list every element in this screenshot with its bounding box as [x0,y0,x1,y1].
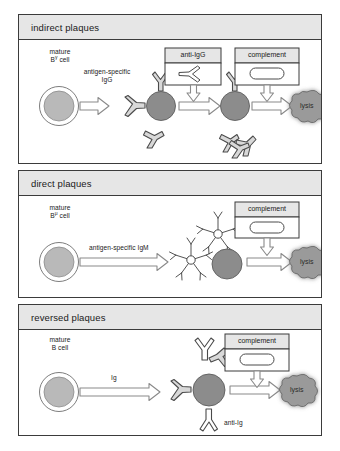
lysis-label-direct: lysis [300,258,314,265]
complement-box-title-direct: complement [235,205,299,212]
arrow-secretion-indirect [80,98,109,115]
igg-antibody-free [125,96,145,117]
igg-label-line1: antigen-specific [84,68,131,75]
panel-title-reversed: reversed plaques [31,312,105,323]
mature-b-cell-direct [40,243,79,282]
panel-body-direct: mature Bμ cell antigen-specific IgM comp… [19,196,321,297]
mature-label-line1-direct: mature [50,204,71,211]
igm-pentamer-lower [170,238,213,280]
mature-label-line2-post-reversed: cell [56,344,68,351]
arrow-ig-secretion [80,384,160,401]
complement-box-title-reversed: complement [225,337,289,344]
complement-box-title-indirect: complement [235,51,299,58]
panel-direct-plaques: direct plaques [18,170,322,298]
panel-title-indirect: indirect plaques [31,22,99,33]
arrow-anti-igg-step [179,98,220,115]
mature-label-line1-reversed: mature [50,336,71,343]
arrow-complement-step [252,98,292,115]
panel-indirect-plaques: indirect plaques [18,14,322,164]
antigen-specific-igg-label: antigen-specific IgG [79,68,135,84]
mature-b-cell-reversed [40,373,79,412]
panel-reversed-plaques: reversed plaques [18,304,322,436]
igm-pentamer-upper [197,212,240,254]
plaque-assay-figure: indirect plaques [0,0,340,451]
mature-cell-label-direct: mature Bμ cell [37,204,83,220]
panel-body-indirect: mature Bγ cell antigen-specific IgG anti… [19,40,321,163]
mature-cell-label-reversed: mature B cell [37,336,83,352]
anti-igg-box-title: anti-IgG [165,51,221,58]
mature-label-line1: mature [50,48,71,55]
ig-arrow-label: Ig [111,374,117,382]
panel-header-direct: direct plaques [19,171,321,196]
ig-antibody-free-reversed [171,380,191,401]
panel-body-reversed: mature B cell Ig anti-Ig complement lysi… [19,330,321,435]
panel-title-direct: direct plaques [31,178,92,189]
anti-ig-label: anti-Ig [224,419,243,427]
arrow-complement-step-direct [247,254,292,271]
panel-header-reversed: reversed plaques [19,305,321,330]
arrow-igm-secretion [80,254,168,271]
mature-cell-label-indirect: mature Bγ cell [37,48,83,64]
panel-header-indirect: indirect plaques [19,15,321,40]
lysis-label-indirect: lysis [300,102,314,109]
igg-label-line2: IgG [102,76,113,83]
antigen-specific-igm-label: antigen-specific IgM [89,244,149,252]
lysis-label-reversed: lysis [290,386,304,393]
mature-label-line2-post: cell [58,56,70,63]
plasma-cell-direct [212,249,242,279]
mature-b-cell-indirect [40,87,79,126]
mature-label-line2-post-direct: cell [58,212,70,219]
